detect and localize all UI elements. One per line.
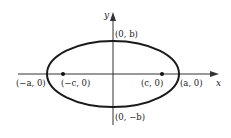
right-focus-point (160, 72, 164, 76)
x-axis-arrow-icon (210, 71, 219, 77)
ellipse-diagram: y x (−a, 0) (−c, 0) (c, 0) (a, 0) (0, b)… (0, 0, 231, 138)
y-axis-arrow-icon (110, 12, 116, 21)
right-vertex-label: (a, 0) (180, 78, 203, 88)
y-axis-label: y (103, 10, 110, 20)
left-focus-label: (−c, 0) (61, 78, 90, 88)
left-focus-point (61, 72, 65, 76)
right-focus-label: (c, 0) (141, 78, 163, 88)
bottom-covertex-label: (0, −b) (115, 112, 145, 122)
x-axis-label: x (216, 78, 221, 88)
top-covertex-label: (0, b) (115, 29, 138, 39)
left-vertex-label: (−a, 0) (16, 78, 46, 88)
